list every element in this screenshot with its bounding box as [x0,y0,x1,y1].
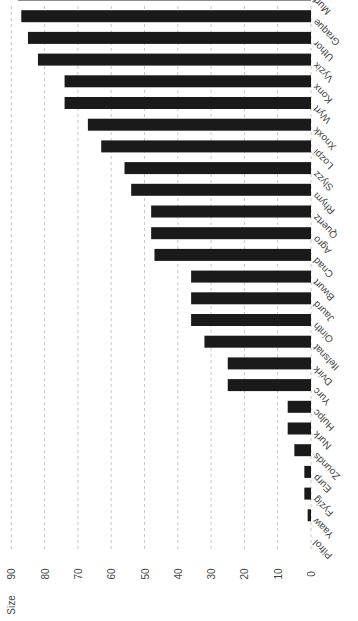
bar [288,423,311,435]
bar [151,227,311,239]
bar [191,271,311,283]
category-label: Ointh [311,321,336,346]
tick-label: 60 [106,568,117,580]
category-label: Yaaw [310,515,335,540]
bar [154,249,311,261]
bar [65,97,311,109]
tick-label: 50 [140,568,151,580]
bar [28,32,311,44]
tick-label: 40 [173,568,184,580]
category-label: Konx [311,82,335,106]
bar [101,140,311,152]
bar [191,314,311,326]
axis-label: Size [6,595,17,615]
bar [228,357,311,369]
category-label: Rhym [311,190,337,216]
category-label: Hulpc [311,407,337,433]
category-label: Murf [310,0,332,17]
category-label: Jaurd [311,299,336,324]
category-label: Yurc [311,386,333,408]
bar [304,466,311,478]
tick-label: 30 [206,568,217,580]
bar [18,0,311,1]
tick-label: 20 [239,568,250,580]
bar [294,444,311,456]
bar [228,379,311,391]
bar [191,292,311,304]
bar [304,488,311,500]
category-labels: PifrolYaawFyzigEurpZoundsNurkHulpcYurcDv… [310,0,342,561]
bar [204,336,311,348]
value-axis-ticks: 0102030405060708090 [6,568,317,580]
tick-label: 0 [306,571,317,577]
category-label: Bwurt [310,277,336,303]
category-label: Vyzix [311,60,335,84]
bars [18,0,311,521]
category-label: Pifrol [311,538,335,562]
bar [151,206,311,218]
bar [38,54,311,66]
bar [308,509,311,521]
category-label: Quertz [311,212,340,241]
category-label: Slyzz [311,169,336,194]
category-label: Cnad [311,255,336,280]
category-label: Xnoxk [310,125,338,153]
category-label: Fyzig [311,494,336,519]
tick-label: 80 [40,568,51,580]
tick-label: 10 [273,568,284,580]
bar [88,119,311,131]
bar [131,184,311,196]
bar [65,75,311,87]
tick-label: 70 [73,568,84,580]
bar [288,401,311,413]
category-label: Wyrt [310,103,332,125]
bar [125,162,311,174]
bar-chart: 0102030405060708090 PifrolYaawFyzigEurpZ… [0,0,358,621]
bar [21,10,311,22]
tick-label: 90 [6,568,17,580]
